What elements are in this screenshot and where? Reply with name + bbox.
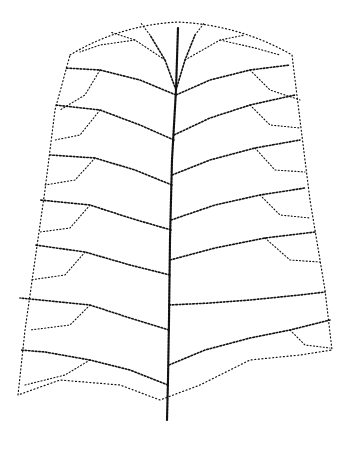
leaf-margin xyxy=(18,22,332,400)
left-lateral-veins xyxy=(20,68,176,385)
apical-veins xyxy=(80,22,280,90)
venation-drawing xyxy=(0,0,353,452)
leaf-venation-illustration xyxy=(0,0,353,452)
right-lateral-veins xyxy=(169,65,330,365)
